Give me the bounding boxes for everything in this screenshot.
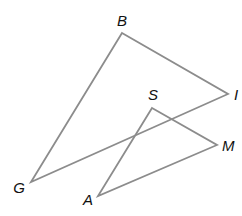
geometry-diagram: B I G S M A: [0, 0, 242, 216]
vertex-label-b: B: [117, 12, 127, 29]
vertex-label-i: I: [234, 86, 238, 103]
triangle-bgi: [31, 33, 228, 182]
vertex-label-a: A: [82, 191, 93, 208]
triangle-sam: [98, 108, 217, 196]
vertex-label-s: S: [148, 86, 158, 103]
vertex-label-m: M: [222, 137, 235, 154]
vertex-label-g: G: [13, 179, 25, 196]
